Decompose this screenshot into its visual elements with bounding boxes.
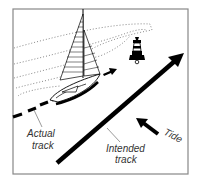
tidal-drift-diagram: Actual track Intended track Tide <box>0 0 199 185</box>
intended-track-leader <box>107 128 120 142</box>
intended-track-label: Intended <box>106 143 145 154</box>
actual-track-label: Actual <box>26 128 56 139</box>
intended-track-label-line2: track <box>115 154 138 165</box>
actual-track-leader <box>34 110 42 127</box>
actual-track-label-line2: track <box>32 140 55 151</box>
sailboat-icon <box>50 9 100 104</box>
tide-arrow-icon <box>136 118 158 134</box>
lighthouse-icon <box>129 37 145 64</box>
heading-arrow-icon <box>103 68 117 76</box>
tide-label: Tide <box>162 126 185 145</box>
